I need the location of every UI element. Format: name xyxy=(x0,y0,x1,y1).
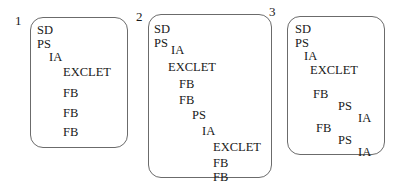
diagram-canvas: 1SDPSIAEXCLETFBFBFB2SDPSIAEXCLETFBFBPSIA… xyxy=(0,0,398,194)
token-ia: IA xyxy=(358,146,371,159)
token-fb: FB xyxy=(179,78,194,91)
token-ps: PS xyxy=(295,37,309,50)
token-ps: PS xyxy=(154,37,168,50)
token-fb: FB xyxy=(313,88,328,101)
panel-number-1: 1 xyxy=(15,14,22,27)
token-ia: IA xyxy=(202,125,215,138)
panel-number-3: 3 xyxy=(269,5,276,18)
token-fb: FB xyxy=(179,94,194,107)
panel-box-1: SDPSIAEXCLETFBFBFB xyxy=(30,17,128,148)
token-fb: FB xyxy=(63,126,78,139)
token-exclet: EXCLET xyxy=(168,61,216,74)
panel-box-3: SDPSIAEXCLETFBPSIAFBPSIA xyxy=(287,16,385,155)
token-exclet: EXCLET xyxy=(213,141,261,154)
token-ia: IA xyxy=(304,50,317,63)
token-exclet: EXCLET xyxy=(63,66,111,79)
token-sd: SD xyxy=(37,24,53,37)
token-exclet: EXCLET xyxy=(310,64,358,77)
token-ps: PS xyxy=(192,109,206,122)
token-sd: SD xyxy=(295,23,311,36)
token-sd: SD xyxy=(154,23,170,36)
token-ps: PS xyxy=(37,38,51,51)
token-ia: IA xyxy=(171,44,184,57)
panel-number-2: 2 xyxy=(136,10,143,23)
token-fb: FB xyxy=(213,157,228,170)
token-fb: FB xyxy=(316,122,331,135)
token-fb: FB xyxy=(63,107,78,120)
token-ps: PS xyxy=(338,134,352,147)
token-fb: FB xyxy=(63,87,78,100)
token-ia: IA xyxy=(358,112,371,125)
token-fb: FB xyxy=(213,171,228,184)
token-ia: IA xyxy=(49,51,62,64)
token-ps: PS xyxy=(338,100,352,113)
panel-box-2: SDPSIAEXCLETFBFBPSIAEXCLETFBFB xyxy=(148,14,272,178)
